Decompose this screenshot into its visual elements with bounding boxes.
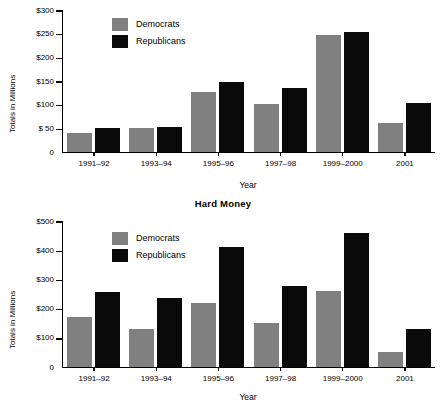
y-axis-tick-mark <box>56 34 63 35</box>
legend-hard-money: Democrats Republicans <box>112 232 186 266</box>
legend-label-republicans: Republicans <box>136 37 186 46</box>
y-axis-tick-label: $400 <box>36 246 54 255</box>
y-axis-tick-label: $150 <box>36 77 54 86</box>
legend-label-democrats: Democrats <box>136 234 180 243</box>
x-axis-tick-mark <box>280 152 281 156</box>
bar-group: 1999–2000 <box>312 11 374 152</box>
y-axis-title-soft-money: Totals in Millions <box>8 75 17 133</box>
bar-democrats-1995–96 <box>191 92 216 152</box>
x-axis-tick-label: 1999–2000 <box>323 374 363 383</box>
legend-item-republicans: Republicans <box>112 35 186 48</box>
legend-item-democrats: Democrats <box>112 18 186 31</box>
bar-republicans-1997–98 <box>282 286 307 367</box>
y-axis-tick-mark <box>56 338 63 339</box>
bar-republicans-1991–92 <box>95 128 120 152</box>
bar-republicans-2001 <box>406 103 431 152</box>
x-axis-tick-mark <box>218 367 219 371</box>
bar-republicans-1995–96 <box>219 82 244 152</box>
legend-swatch-democrats-icon <box>112 232 128 245</box>
bar-republicans-1991–92 <box>95 292 120 367</box>
x-axis-tick-mark <box>404 367 405 371</box>
y-axis-title-hard-money: Totals in Millions <box>8 291 17 349</box>
legend-item-democrats: Democrats <box>112 232 186 245</box>
bar-democrats-2001 <box>378 352 403 367</box>
bar-republicans-1997–98 <box>282 88 307 152</box>
bar-democrats-1999–2000 <box>316 35 341 152</box>
legend-swatch-democrats-icon <box>112 18 128 31</box>
y-axis-tick-label: $200 <box>36 53 54 62</box>
x-axis-tick-mark <box>93 152 94 156</box>
y-axis-tick-label: $500 <box>36 217 54 226</box>
bar-group: 1997–98 <box>250 222 312 367</box>
x-axis-tick-label: 1993–94 <box>141 374 172 383</box>
legend-label-republicans: Republicans <box>136 251 186 260</box>
y-axis-tick-label: $250 <box>36 29 54 38</box>
bar-democrats-1991–92 <box>67 317 92 367</box>
y-axis-tick-mark <box>56 58 63 59</box>
y-axis-tick-mark <box>56 81 63 82</box>
legend-soft-money: Democrats Republicans <box>112 18 186 52</box>
bar-republicans-1995–96 <box>219 247 244 367</box>
y-axis-tick-label: $ 50 <box>38 124 54 133</box>
y-axis-tick-mark <box>56 221 63 222</box>
x-axis-tick-label: 1993–94 <box>141 159 172 168</box>
x-axis-tick-mark <box>280 367 281 371</box>
x-axis-tick-label: 2001 <box>396 159 414 168</box>
chart-hard-money: Hard Money Totals in Millions $500$400$3… <box>0 196 446 408</box>
x-axis-tick-mark <box>342 152 343 156</box>
legend-item-republicans: Republicans <box>112 249 186 262</box>
x-axis-tick-label: 1997–98 <box>265 374 296 383</box>
x-axis-tick-mark <box>218 152 219 156</box>
bar-republicans-1999–2000 <box>344 233 369 367</box>
x-axis-tick-label: 2001 <box>396 374 414 383</box>
bar-group: 2001 <box>374 222 436 367</box>
bar-group: 2001 <box>374 11 436 152</box>
x-axis-tick-label: 1997–98 <box>265 159 296 168</box>
bar-republicans-2001 <box>406 329 431 367</box>
x-axis-tick-label: 1999–2000 <box>323 159 363 168</box>
bar-group: 1997–98 <box>250 11 312 152</box>
x-axis-tick-label: 1991–92 <box>79 159 110 168</box>
bar-democrats-2001 <box>378 123 403 152</box>
x-axis-tick-label: 1991–92 <box>79 374 110 383</box>
bar-democrats-1993–94 <box>129 329 154 367</box>
y-axis-tick-label: 0 <box>50 363 54 372</box>
bar-democrats-1993–94 <box>129 128 154 152</box>
bar-group: 1995–96 <box>187 222 249 367</box>
bar-republicans-1993–94 <box>157 298 182 367</box>
x-axis-tick-mark <box>342 367 343 371</box>
legend-swatch-republicans-icon <box>112 35 128 48</box>
x-axis-tick-mark <box>404 152 405 156</box>
chart-soft-money: Soft Money Totals in Millions $300$250$2… <box>0 0 446 200</box>
legend-swatch-republicans-icon <box>112 249 128 262</box>
bar-democrats-1999–2000 <box>316 291 341 368</box>
x-axis-tick-mark <box>156 367 157 371</box>
bar-republicans-1999–2000 <box>344 32 369 152</box>
y-axis-tick-label: $200 <box>36 304 54 313</box>
x-axis-tick-mark <box>156 152 157 156</box>
bar-democrats-1991–92 <box>67 133 92 152</box>
y-axis-tick-label: $100 <box>36 100 54 109</box>
y-axis-tick-label: $300 <box>36 6 54 15</box>
bar-democrats-1995–96 <box>191 303 216 367</box>
bar-democrats-1997–98 <box>254 323 279 367</box>
y-axis-tick-mark <box>56 280 63 281</box>
y-axis-tick-mark <box>56 105 63 106</box>
legend-label-democrats: Democrats <box>136 20 180 29</box>
x-axis-tick-label: 1995–96 <box>203 159 234 168</box>
bar-republicans-1993–94 <box>157 127 182 152</box>
y-axis-tick-mark <box>56 251 63 252</box>
x-axis-tick-label: 1995–96 <box>203 374 234 383</box>
y-axis-tick-mark <box>56 309 63 310</box>
x-axis-title-soft-money: Year <box>62 180 434 190</box>
bar-democrats-1997–98 <box>254 104 279 152</box>
y-axis-tick-mark <box>56 129 63 130</box>
bar-group: 1999–2000 <box>312 222 374 367</box>
chart-title-hard-money: Hard Money <box>0 198 446 209</box>
y-axis-tick-mark <box>56 10 63 11</box>
y-axis-tick-label: 0 <box>50 148 54 157</box>
bar-group: 1995–96 <box>187 11 249 152</box>
x-axis-tick-mark <box>93 367 94 371</box>
y-axis-tick-label: $100 <box>36 333 54 342</box>
x-axis-title-hard-money: Year <box>62 392 434 402</box>
